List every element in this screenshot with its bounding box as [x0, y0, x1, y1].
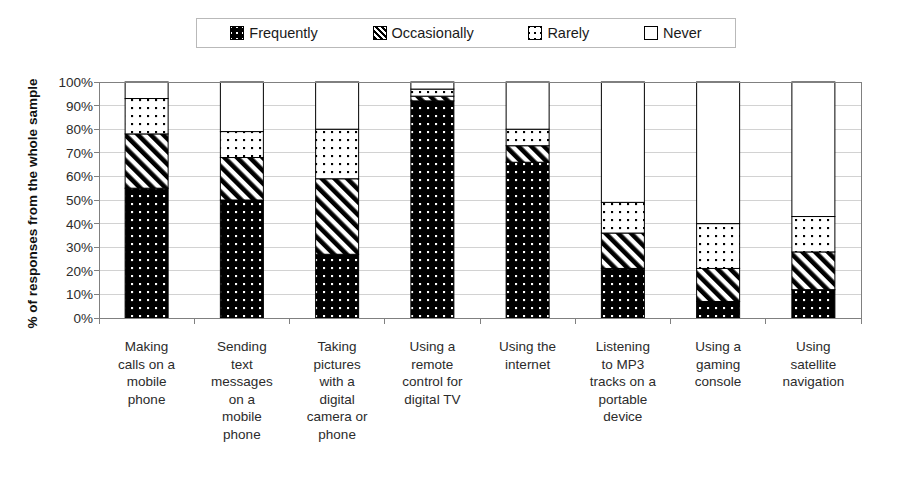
- x-category-label-line: mobile: [99, 373, 194, 391]
- x-category-label-line: gaming: [671, 356, 766, 374]
- x-category-label-line: calls on a: [99, 356, 194, 374]
- x-category-label-line: with a: [290, 373, 385, 391]
- stacked-bar-chart: Frequently Occasionally Rarely Never % o…: [0, 0, 899, 495]
- x-category-label-line: console: [671, 373, 766, 391]
- x-category-label: Usingsatellitenavigation: [766, 338, 861, 391]
- x-category-label: Using agamingconsole: [671, 338, 766, 391]
- x-category-label-line: digital TV: [385, 391, 480, 409]
- x-category-label-line: tracks on a: [575, 373, 670, 391]
- x-category-label: Using theinternet: [480, 338, 575, 373]
- x-category-label: Sendingtextmessageson amobilephone: [194, 338, 289, 443]
- x-category-label-line: Listening: [575, 338, 670, 356]
- x-category-label-line: mobile: [194, 408, 289, 426]
- x-category-label-line: pictures: [290, 356, 385, 374]
- x-category-label-line: phone: [290, 426, 385, 444]
- x-category-label-line: on a: [194, 391, 289, 409]
- x-category-label-line: Sending: [194, 338, 289, 356]
- x-category-label-line: remote: [385, 356, 480, 374]
- x-category-label: Listeningto MP3tracks on aportabledevice: [575, 338, 670, 426]
- x-category-label-line: digital: [290, 391, 385, 409]
- x-category-label-line: Using a: [385, 338, 480, 356]
- x-category-label-line: Making: [99, 338, 194, 356]
- x-category-label-line: internet: [480, 356, 575, 374]
- x-category-label-line: portable: [575, 391, 670, 409]
- x-category-label-line: Using a: [671, 338, 766, 356]
- x-category-label-line: camera or: [290, 408, 385, 426]
- x-category-label-line: phone: [99, 391, 194, 409]
- x-category-label-line: Using the: [480, 338, 575, 356]
- x-category-label: Makingcalls on amobilephone: [99, 338, 194, 408]
- x-category-label-line: device: [575, 408, 670, 426]
- x-category-label: Takingpictureswith adigitalcamera orphon…: [290, 338, 385, 443]
- x-category-label-line: phone: [194, 426, 289, 444]
- x-category-label-line: text: [194, 356, 289, 374]
- x-category-label-line: control for: [385, 373, 480, 391]
- x-category-label-line: satellite: [766, 356, 861, 374]
- x-axis-category-labels: Makingcalls on amobilephoneSendingtextme…: [0, 0, 899, 495]
- x-category-label-line: to MP3: [575, 356, 670, 374]
- x-category-label-line: messages: [194, 373, 289, 391]
- x-category-label-line: navigation: [766, 373, 861, 391]
- x-category-label-line: Using: [766, 338, 861, 356]
- x-category-label: Using aremotecontrol fordigital TV: [385, 338, 480, 408]
- x-category-label-line: Taking: [290, 338, 385, 356]
